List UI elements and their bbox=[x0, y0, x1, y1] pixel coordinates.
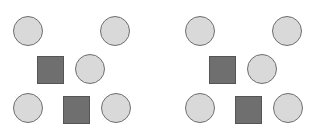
square-shape bbox=[209, 56, 236, 84]
circle-shape bbox=[75, 54, 105, 84]
circle-shape bbox=[13, 93, 43, 123]
circle-shape bbox=[273, 93, 303, 123]
square-shape bbox=[37, 56, 64, 84]
circle-shape bbox=[13, 16, 43, 46]
square-shape bbox=[63, 96, 90, 124]
circle-shape bbox=[247, 54, 277, 84]
circle-shape bbox=[100, 16, 130, 46]
left-panel bbox=[0, 0, 150, 128]
circle-shape bbox=[185, 16, 215, 46]
circle-shape bbox=[272, 16, 302, 46]
circle-shape bbox=[185, 93, 215, 123]
circle-shape bbox=[101, 93, 131, 123]
right-panel bbox=[172, 0, 319, 128]
square-shape bbox=[235, 96, 262, 124]
